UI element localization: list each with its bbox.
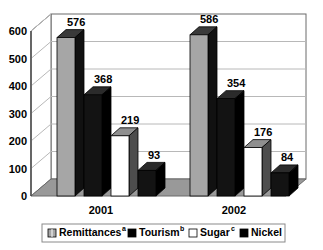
data-label-2001-sugar: 219 xyxy=(121,114,139,126)
chart-canvas: 600 500 400 300 200 100 0 xyxy=(0,0,323,250)
y-tick-label-100: 100 xyxy=(9,163,27,175)
x-category-label-2001: 2001 xyxy=(89,204,113,216)
bar-side-face xyxy=(262,140,271,196)
legend-sup-sugar: c xyxy=(231,225,235,232)
data-label-2002-nickel: 84 xyxy=(281,151,294,163)
bar-front-face xyxy=(138,170,156,196)
bar-side-face xyxy=(208,27,217,196)
y-tick-label-300: 300 xyxy=(9,108,27,120)
legend-label-sugar: Sugar xyxy=(200,226,230,238)
y-tick-label-400: 400 xyxy=(9,80,27,92)
bar-front-face xyxy=(217,99,235,196)
y-tick-label-600: 600 xyxy=(9,25,27,37)
bar-front-face xyxy=(244,148,262,196)
bar-2002-sugar[interactable] xyxy=(244,140,271,196)
bar-2002-nickel[interactable] xyxy=(271,165,298,196)
y-tick-label-0: 0 xyxy=(21,190,27,202)
bar-2002-remittances[interactable] xyxy=(190,27,217,196)
legend-item-remittances[interactable]: Remittances a xyxy=(48,225,126,238)
bar-front-face xyxy=(84,95,102,196)
legend-sup-tourism: b xyxy=(180,225,184,232)
bar-side-face xyxy=(129,128,138,196)
bar-2001-sugar[interactable] xyxy=(111,128,138,196)
legend-label-nickel: Nickel xyxy=(251,226,282,238)
legend-label-remittances: Remittances xyxy=(59,226,122,238)
y-tick-label-500: 500 xyxy=(9,53,27,65)
bar-front-face xyxy=(57,38,75,196)
data-label-2002-remittances: 586 xyxy=(200,13,218,25)
y-axis-labels: 600 500 400 300 200 100 0 xyxy=(9,25,27,202)
legend-swatch-nickel-icon xyxy=(240,229,248,237)
x-axis-labels: 2001 2002 xyxy=(89,204,246,216)
bar-2002-tourism[interactable] xyxy=(217,91,244,196)
legend-label-tourism: Tourism xyxy=(139,226,180,238)
x-category-label-2002: 2002 xyxy=(222,204,246,216)
bar-2001-tourism[interactable] xyxy=(84,87,111,196)
data-label-2002-tourism: 354 xyxy=(227,77,246,89)
bar-side-face xyxy=(75,30,84,196)
data-label-2001-tourism: 368 xyxy=(94,73,112,85)
y-tick-label-200: 200 xyxy=(9,135,27,147)
bar-front-face xyxy=(271,173,289,196)
data-label-2002-sugar: 176 xyxy=(254,126,272,138)
bar-2001-nickel[interactable] xyxy=(138,162,165,196)
bar-front-face xyxy=(111,136,129,196)
bar-chart-figure: 600 500 400 300 200 100 0 xyxy=(0,0,323,250)
bar-side-face xyxy=(235,91,244,196)
bar-front-face xyxy=(190,35,208,196)
data-label-2001-nickel: 93 xyxy=(148,149,160,161)
bar-2001-remittances[interactable] xyxy=(57,30,84,196)
legend-sup-remittances: a xyxy=(122,225,126,232)
data-label-2001-remittances: 576 xyxy=(67,16,85,28)
bar-side-face xyxy=(102,87,111,196)
legend-swatch-sugar-icon xyxy=(189,229,197,237)
chart-legend: Remittances a Tourism b Sugar c Nickel xyxy=(42,224,285,242)
legend-swatch-tourism-icon xyxy=(128,229,136,237)
